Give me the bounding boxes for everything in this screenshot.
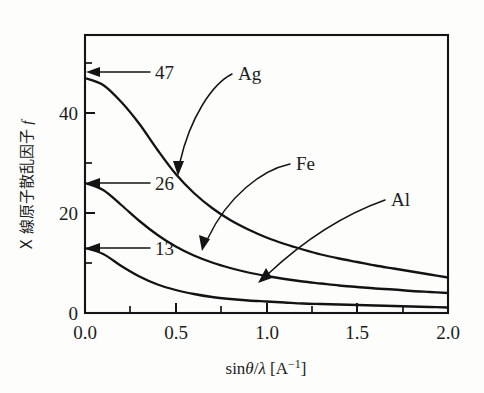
x-axis-title-lambda: λ xyxy=(257,359,265,378)
x-tick-label-1-5: 1.5 xyxy=(345,322,369,343)
annotation-47: 47 xyxy=(86,62,174,83)
annotation-26-label: 26 xyxy=(155,173,174,194)
x-axis-title-unit-open: [A xyxy=(270,359,289,378)
y-axis-title-main: X 線原子散乱因子 xyxy=(18,129,36,249)
x-tick-label-1-0: 1.0 xyxy=(255,322,279,343)
x-tick-label-2-0: 2.0 xyxy=(436,322,460,343)
series-label-fe-group: Fe xyxy=(199,153,315,251)
x-axis-title-unit-close: ] xyxy=(301,359,307,378)
series-label-al-group: Al xyxy=(258,189,410,283)
x-axis-title-func: sin xyxy=(226,359,246,378)
y-axis-title: X 線原子散乱因子 f xyxy=(18,119,36,250)
svg-text:X 線原子散乱因子 f: X 線原子散乱因子 f xyxy=(18,119,36,250)
y-axis-ticks xyxy=(85,63,95,313)
y-tick-label-40: 40 xyxy=(59,103,78,124)
annotation-13: 13 xyxy=(86,238,174,259)
figure-container: 0 20 40 0.0 0.5 1.0 1.5 2.0 47 26 13 xyxy=(0,0,484,393)
annotation-13-arrowhead xyxy=(86,243,100,253)
y-axis-title-symbol: f xyxy=(19,119,35,125)
series-label-ag-group: Ag xyxy=(173,63,262,176)
series-label-ag: Ag xyxy=(238,63,262,84)
x-axis-ticks xyxy=(85,303,448,313)
annotation-13-label: 13 xyxy=(155,238,174,259)
scattering-factor-chart: 0 20 40 0.0 0.5 1.0 1.5 2.0 47 26 13 xyxy=(0,0,484,393)
x-tick-label-0-0: 0.0 xyxy=(73,322,97,343)
x-axis-title-theta: θ xyxy=(245,359,253,378)
series-label-fe: Fe xyxy=(296,153,315,174)
annotation-47-label: 47 xyxy=(155,62,174,83)
series-label-al: Al xyxy=(391,189,410,210)
y-tick-label-0: 0 xyxy=(69,303,79,324)
series-label-ag-leader xyxy=(180,74,232,162)
x-axis-title-unit-exp: −1 xyxy=(288,357,301,371)
svg-text:sinθ/λ [A−1]: sinθ/λ [A−1] xyxy=(226,357,307,378)
annotation-47-arrowhead xyxy=(86,67,100,77)
y-tick-label-20: 20 xyxy=(59,203,78,224)
series-label-fe-leader xyxy=(208,164,290,238)
annotation-26: 26 xyxy=(86,173,174,194)
x-tick-label-0-5: 0.5 xyxy=(164,322,188,343)
x-axis-title: sinθ/λ [A−1] xyxy=(226,357,307,378)
